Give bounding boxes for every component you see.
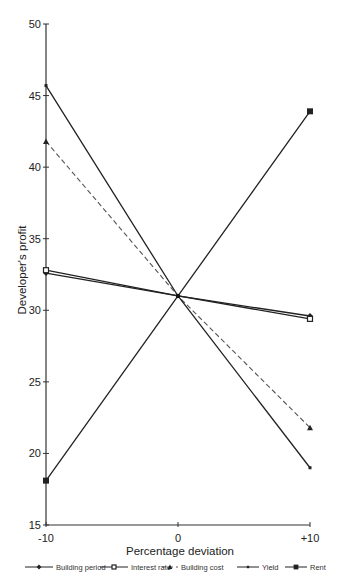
y-axis-title: Developer's profit — [16, 225, 28, 315]
dot-marker-icon — [247, 566, 249, 568]
axes: 1520253035404550-100+10 — [29, 18, 320, 544]
y-tick-label: 30 — [29, 304, 41, 316]
diamond-marker-icon — [37, 565, 42, 570]
legend-item-rent: Rent — [285, 563, 327, 572]
series-building-cost — [43, 138, 313, 430]
y-tick-label: 15 — [29, 519, 41, 531]
legend: Building periodInterest rateBuilding cos… — [25, 563, 327, 572]
legend-label: Building period — [56, 563, 106, 572]
open-square-marker-icon — [44, 268, 49, 273]
open-square-marker-icon — [308, 316, 313, 321]
dot-marker-icon — [45, 84, 48, 87]
series-yield — [45, 84, 312, 469]
y-tick-label: 50 — [29, 18, 41, 30]
legend-label: Yield — [262, 563, 278, 572]
intersection-point — [176, 294, 180, 298]
square-marker-icon — [294, 565, 299, 570]
x-tick-label: 0 — [175, 532, 181, 544]
y-tick-label: 40 — [29, 161, 41, 173]
open-square-marker-icon — [112, 565, 116, 569]
line-chart: 1520253035404550-100+10 Building periodI… — [0, 0, 337, 588]
square-marker-icon — [43, 478, 49, 484]
y-tick-label: 25 — [29, 376, 41, 388]
x-tick-label: -10 — [38, 532, 54, 544]
x-axis-title: Percentage deviation — [126, 545, 234, 557]
y-tick-label: 45 — [29, 90, 41, 102]
legend-item-building-period: Building period — [25, 563, 106, 572]
triangle-marker-icon — [43, 138, 49, 144]
series-line — [46, 141, 310, 427]
legend-label: Rent — [310, 563, 327, 572]
y-tick-label: 20 — [29, 447, 41, 459]
legend-label: Building cost — [181, 563, 224, 572]
legend-item-yield: Yield — [237, 563, 278, 572]
dot-marker-icon — [309, 466, 312, 469]
series-lines — [43, 84, 313, 484]
x-tick-label: +10 — [301, 532, 320, 544]
square-marker-icon — [307, 108, 313, 114]
legend-item-building-cost: Building cost — [162, 563, 224, 572]
series-line — [46, 86, 310, 468]
legend-item-interest-rate: Interest rate — [100, 563, 171, 572]
y-tick-label: 35 — [29, 233, 41, 245]
